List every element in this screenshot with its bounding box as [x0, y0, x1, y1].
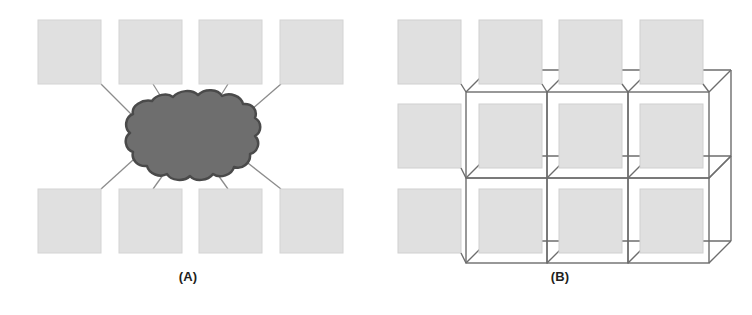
- panel-a-node-7: [199, 189, 262, 253]
- panel-b-node-2: [479, 20, 542, 84]
- panel-b-nodes-row-2: [398, 104, 703, 168]
- panel-b-node-4: [640, 20, 703, 84]
- panel-a-node-4: [280, 20, 343, 84]
- panel-b-nodes-row-1: [398, 20, 703, 84]
- panel-b-node-5: [398, 104, 461, 168]
- cloud-icon: [126, 90, 261, 180]
- panel-b-col1-connectors: [461, 168, 466, 263]
- panel-b-node-9: [398, 189, 461, 253]
- panel-b-node-6: [479, 104, 542, 168]
- link-node-8-cloud: [244, 160, 281, 189]
- connector-r1c4: [703, 84, 709, 92]
- connector-r2c1: [461, 168, 466, 178]
- panel-b-node-11: [559, 189, 622, 253]
- connector-r1c1: [461, 84, 466, 92]
- panel-b-node-3: [559, 20, 622, 84]
- connector-r1c3: [622, 84, 628, 92]
- panel-b-node-12: [640, 189, 703, 253]
- panel-a-node-3: [199, 20, 262, 84]
- panel-a-nodes-bottom: [38, 189, 343, 253]
- panel-b-node-7: [559, 104, 622, 168]
- panel-b-row1-connectors: [461, 84, 709, 92]
- panel-b-node-8: [640, 104, 703, 168]
- box-depth-r2c4: [709, 70, 731, 178]
- panel-a-node-8: [280, 189, 343, 253]
- panel-b-node-1: [398, 20, 461, 84]
- figure-canvas: (A) (B): [0, 0, 752, 315]
- panel-a-caption: (A): [148, 269, 228, 284]
- panel-a-node-1: [38, 20, 101, 84]
- box-depth-r3c4: [709, 156, 731, 263]
- link-node-6-cloud: [153, 175, 163, 189]
- panel-b-caption: (B): [520, 269, 600, 284]
- figure-svg: [0, 0, 752, 315]
- link-node-5-cloud: [101, 160, 133, 189]
- panel-a-node-2: [119, 20, 182, 84]
- panel-b-node-10: [479, 189, 542, 253]
- link-node-1-cloud: [101, 84, 133, 116]
- panel-a-nodes-top: [38, 20, 343, 84]
- connector-r3c1: [461, 253, 466, 263]
- panel-b-nodes-row-3: [398, 189, 703, 253]
- panel-a-node-6: [119, 189, 182, 253]
- connector-r1c2: [542, 84, 547, 92]
- panel-a: [38, 20, 343, 253]
- panel-a-node-5: [38, 189, 101, 253]
- panel-b: [398, 20, 731, 263]
